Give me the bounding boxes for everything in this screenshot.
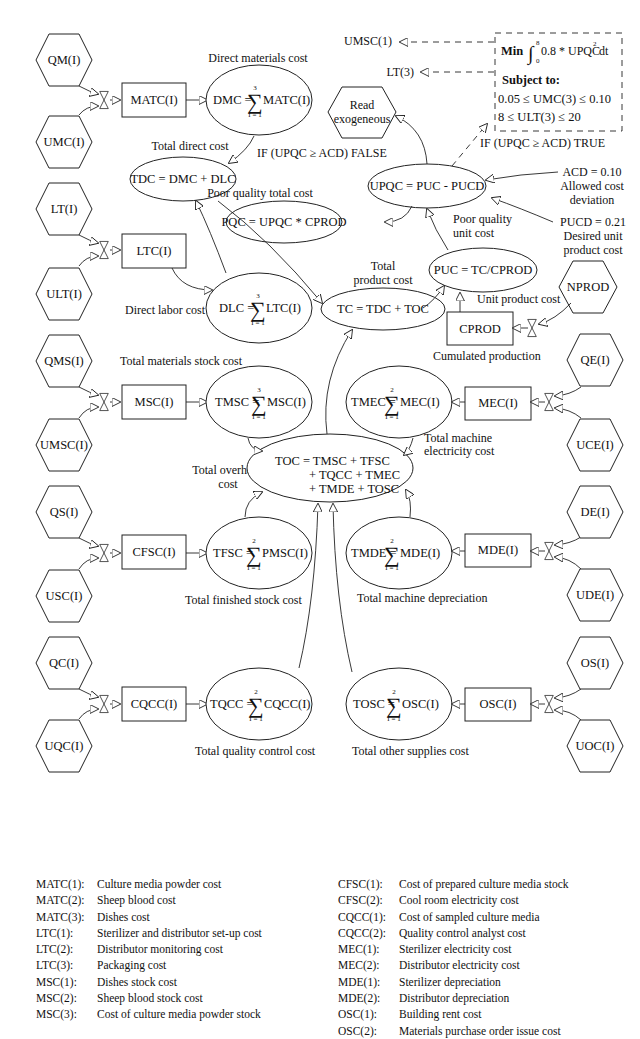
stock-cfsc: CFSC(I)	[122, 535, 186, 569]
svg-text:CQCC(I): CQCC(I)	[131, 697, 178, 711]
exogenous-left-group: QM(I) UMC(I) LT(I) ULT(I) QMS(I) UMSC(I)…	[36, 34, 92, 772]
stock-matc: MATC(I)	[122, 83, 186, 117]
stock-cqcc: CQCC(I)	[122, 687, 186, 721]
hex-uqc: UQC(I)	[36, 720, 92, 772]
hex-nprod: NPROD	[559, 261, 617, 313]
stock-mde: MDE(I)	[465, 534, 531, 567]
svg-text:cost: cost	[218, 477, 238, 491]
svg-text:2: 2	[392, 688, 396, 696]
exogenous-right-group: QE(I) UCE(I) DE(I) UDE(I) OS(I) UOC(I)	[567, 334, 623, 772]
condition-true: IF (UPQC ≥ ACD) TRUE	[480, 136, 605, 150]
svg-text:Poor quality: Poor quality	[453, 212, 512, 226]
hex-de: DE(I)	[567, 486, 623, 538]
svg-text:QMS(I): QMS(I)	[44, 354, 84, 368]
svg-text:DE(I): DE(I)	[580, 505, 609, 519]
svg-text:exogeneous: exogeneous	[334, 112, 391, 126]
legend-row: MSC(1):Dishes stock cost	[36, 974, 262, 990]
svg-text:OS(I): OS(I)	[581, 656, 609, 670]
legend-row: LTC(1):Sterilizer and distributor set-up…	[36, 925, 262, 941]
svg-text:UOC(I): UOC(I)	[576, 739, 615, 753]
svg-text:0.05 ≤ UMC(3) ≤ 0.10: 0.05 ≤ UMC(3) ≤ 0.10	[498, 92, 611, 106]
hex-ude: UDE(I)	[567, 569, 623, 621]
eq-pqc: Poor quality total cost PQC = UPQC * CPR…	[207, 186, 346, 243]
hex-uoc: UOC(I)	[567, 720, 623, 772]
eq-upqc: UPQC = PUC - PUCD Poor quality unit cost	[368, 164, 512, 240]
sum-dmc: Direct materials cost DMC = ∑ 3 I = 1 MA…	[206, 51, 312, 135]
stock-mec: MEC(I)	[465, 387, 531, 420]
svg-text:Total machine depreciation: Total machine depreciation	[357, 591, 487, 605]
svg-text:MATC(I): MATC(I)	[130, 93, 177, 107]
legend-row: MDE(2):Distributor depreciation	[338, 990, 569, 1006]
legend-left: MATC(1):Culture media powder cost MATC(2…	[36, 876, 262, 1023]
svg-text:TC = TDC + TOC: TC = TDC + TOC	[337, 302, 429, 316]
legend-row: MSC(2):Sheep blood stock cost	[36, 990, 262, 1006]
legend-row: MATC(2):Sheep blood cost	[36, 892, 262, 908]
legend-row: LTC(2):Distributor monitoring cost	[36, 941, 262, 957]
stock-ltc: LTC(I)	[122, 234, 186, 268]
svg-text:electricity cost: electricity cost	[424, 444, 495, 458]
hex-usc: USC(I)	[36, 570, 92, 622]
svg-text:Poor quality total cost: Poor quality total cost	[207, 186, 313, 200]
svg-text:Direct labor cost: Direct labor cost	[125, 303, 206, 317]
svg-text:NPROD: NPROD	[567, 280, 609, 294]
svg-text:I = 1: I = 1	[387, 715, 401, 723]
valve-cfsc-icon	[79, 538, 120, 569]
hex-lt: LT(I)	[36, 183, 92, 235]
svg-text:+ TQCC + TMEC: + TQCC + TMEC	[309, 468, 400, 482]
svg-text:QS(I): QS(I)	[50, 505, 78, 519]
svg-text:Min: Min	[501, 44, 523, 58]
svg-text:I = 1: I = 1	[385, 564, 399, 572]
svg-text:UPQC = PUC - PUCD: UPQC = PUC - PUCD	[370, 179, 485, 193]
svg-text:deviation: deviation	[570, 193, 615, 207]
svg-text:MSC(I): MSC(I)	[267, 395, 306, 409]
svg-text:8: 8	[536, 39, 540, 47]
svg-text:PQC = UPQC * CPROD: PQC = UPQC * CPROD	[221, 215, 346, 229]
hex-umc: UMC(I)	[36, 116, 92, 168]
svg-text:MSC(I): MSC(I)	[135, 395, 174, 409]
legend-row: MDE(1):Sterilizer depreciation	[338, 974, 569, 990]
svg-text:CQCC(I): CQCC(I)	[264, 697, 311, 711]
svg-text:+ TMDE + TOSC: + TMDE + TOSC	[309, 482, 399, 496]
legend-row: MATC(3):Dishes cost	[36, 909, 262, 925]
legend-row: OSC(2):Materials purchase order issue co…	[338, 1023, 569, 1039]
constant-pucd: PUCD = 0.21 Desired unit product cost	[560, 215, 626, 257]
optimization-box: Min ∫ 8 0 0.8 * UPQC 2 dt Subject to: 0.…	[495, 33, 622, 131]
svg-text:MATC(I): MATC(I)	[263, 93, 310, 107]
svg-text:3: 3	[253, 84, 257, 92]
svg-text:LT(3): LT(3)	[386, 65, 414, 79]
svg-text:PUC = TC/CPROD: PUC = TC/CPROD	[434, 263, 533, 277]
svg-text:2: 2	[390, 386, 394, 394]
cost-model-diagram: QM(I) UMC(I) LT(I) ULT(I) QMS(I) UMSC(I)…	[0, 0, 640, 870]
legend-right: CFSC(1):Cost of prepared culture media s…	[338, 876, 569, 1039]
svg-text:Total direct cost: Total direct cost	[151, 139, 229, 153]
hex-umsc: UMSC(I)	[36, 419, 92, 471]
legend-row: MSC(3):Cost of culture media powder stoc…	[36, 1006, 262, 1022]
stock-cprod: CPROD Cumulated production	[433, 312, 541, 363]
svg-text:MDE(I): MDE(I)	[400, 546, 440, 560]
svg-text:ULT(I): ULT(I)	[46, 287, 82, 301]
svg-text:UDE(I): UDE(I)	[576, 588, 614, 602]
legend-row: CFSC(1):Cost of prepared culture media s…	[338, 876, 569, 892]
hex-qs: QS(I)	[36, 486, 92, 538]
svg-text:USC(I): USC(I)	[46, 589, 83, 603]
condition-false: IF (UPQC ≥ ACD) FALSE	[257, 146, 387, 160]
hex-os: OS(I)	[567, 637, 623, 689]
svg-text:UMSC(I): UMSC(I)	[40, 438, 88, 452]
eq-toc: Total overhead cost TOC = TMSC + TFSC + …	[192, 434, 413, 502]
svg-text:unit cost: unit cost	[453, 226, 495, 240]
hex-qc: QC(I)	[36, 637, 92, 689]
valve-ltc-icon	[79, 235, 120, 266]
legend-row: CQCC(2):Quality control analyst cost	[338, 925, 569, 941]
svg-text:Total machine: Total machine	[424, 431, 492, 445]
svg-text:TOC = TMSC + TFSC: TOC = TMSC + TFSC	[275, 454, 390, 468]
svg-text:Cumulated production: Cumulated production	[433, 349, 541, 363]
svg-text:UQC(I): UQC(I)	[45, 739, 84, 753]
svg-text:I = 1: I = 1	[251, 319, 265, 327]
read-exogeneous-hex: Read exogeneous	[328, 87, 396, 138]
legend-row: MATC(1):Culture media powder cost	[36, 876, 262, 892]
svg-text:LT(I): LT(I)	[51, 202, 78, 216]
svg-text:ACD = 0.10: ACD = 0.10	[562, 165, 621, 179]
legend-row: LTC(3):Packaging cost	[36, 957, 262, 973]
valve-cqcc-icon	[79, 689, 120, 719]
legend-row: CQCC(1):Cost of sampled culture media	[338, 909, 569, 925]
